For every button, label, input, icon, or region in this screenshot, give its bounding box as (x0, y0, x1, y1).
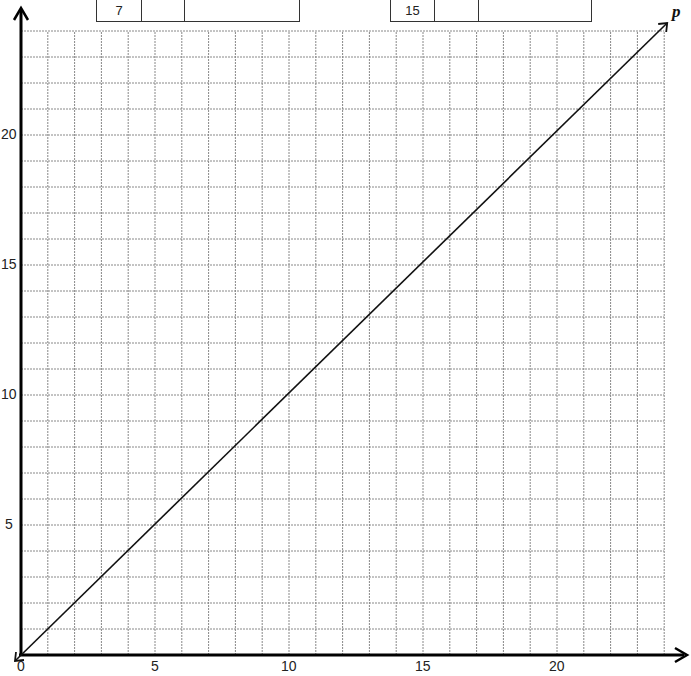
x-tick-label: 20 (549, 658, 565, 674)
x-tick-label: 15 (415, 658, 431, 674)
line-label: p (672, 2, 681, 22)
y-tick-label: 20 (1, 126, 17, 142)
y-tick-label: 5 (5, 516, 13, 532)
y-tick-label: 15 (1, 256, 17, 272)
x-tick-label: 10 (281, 658, 297, 674)
line-p (15, 23, 667, 661)
x-tick-label: 0 (17, 658, 25, 674)
x-tick-label: 5 (151, 658, 159, 674)
chart (0, 0, 691, 676)
y-tick-label: 10 (1, 386, 17, 402)
